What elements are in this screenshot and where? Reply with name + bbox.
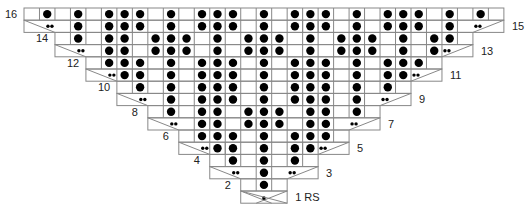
knit-dot-symbol — [120, 47, 128, 55]
knit-dot-symbol — [476, 10, 484, 18]
knit-dot-symbol — [244, 120, 252, 128]
bobble-symbol — [205, 147, 208, 150]
row-label-4: 4 — [194, 154, 200, 166]
knit-dot-symbol — [213, 10, 221, 18]
knit-dot-symbol — [291, 132, 299, 140]
knit-dot-symbol — [213, 83, 221, 91]
knit-dot-symbol — [213, 71, 221, 79]
knit-dot-symbol — [198, 132, 206, 140]
knit-dot-symbol — [136, 83, 144, 91]
bobble-symbol — [108, 73, 111, 76]
knit-dot-symbol — [260, 71, 268, 79]
knit-dot-symbol — [353, 83, 361, 91]
knit-dot-symbol — [399, 47, 407, 55]
knit-dot-symbol — [167, 108, 175, 116]
knit-dot-symbol — [353, 59, 361, 67]
knit-dot-symbol — [306, 120, 314, 128]
knit-dot-symbol — [306, 132, 314, 140]
bobble-symbol — [443, 49, 446, 52]
knit-dot-symbol — [260, 181, 268, 189]
knit-dot-symbol — [322, 71, 330, 79]
bobble-symbol — [50, 25, 53, 28]
knit-dot-symbol — [322, 10, 330, 18]
knit-dot-symbol — [105, 22, 113, 30]
knit-dot-symbol — [198, 59, 206, 67]
row-label-1: 1 RS — [295, 191, 319, 203]
bobble-symbol — [381, 98, 384, 101]
knit-dot-symbol — [260, 59, 268, 67]
knit-dot-symbol — [260, 10, 268, 18]
knit-dot-symbol — [291, 71, 299, 79]
knit-dot-symbol — [322, 59, 330, 67]
knit-dot-symbol — [213, 22, 221, 30]
knit-dot-symbol — [275, 47, 283, 55]
knit-dot-symbol — [275, 120, 283, 128]
knit-dot-symbol — [105, 34, 113, 42]
bobble-symbol — [46, 25, 49, 28]
bobble-symbol — [292, 171, 295, 174]
knit-dot-symbol — [291, 10, 299, 18]
knit-dot-symbol — [198, 22, 206, 30]
knit-dot-symbol — [182, 34, 190, 42]
row-label-2: 2 — [225, 179, 231, 191]
knit-dot-symbol — [337, 47, 345, 55]
knit-dot-symbol — [415, 59, 423, 67]
row-label-6: 6 — [163, 130, 169, 142]
knit-dot-symbol — [275, 108, 283, 116]
knit-dot-symbol — [229, 95, 237, 103]
knit-dot-symbol — [353, 10, 361, 18]
knit-dot-symbol — [167, 22, 175, 30]
knit-dot-symbol — [151, 47, 159, 55]
bobble-symbol — [474, 25, 477, 28]
bobble-symbol — [323, 147, 326, 150]
row-label-12: 12 — [67, 57, 79, 69]
knit-dot-symbol — [291, 144, 299, 152]
knit-dot-symbol — [213, 34, 221, 42]
knit-dot-symbol — [384, 22, 392, 30]
decrease-diagonal-left — [241, 191, 272, 203]
knit-dot-symbol — [306, 83, 314, 91]
knit-dot-symbol — [229, 22, 237, 30]
row-label-16: 16 — [5, 8, 17, 20]
knit-dot-symbol — [229, 83, 237, 91]
knit-dot-symbol — [260, 83, 268, 91]
knit-dot-symbol — [167, 34, 175, 42]
knit-dot-symbol — [167, 95, 175, 103]
knit-dot-symbol — [213, 120, 221, 128]
knit-dot-symbol — [260, 22, 268, 30]
knit-dot-symbol — [337, 34, 345, 42]
knit-dot-symbol — [306, 59, 314, 67]
bobble-symbol — [350, 122, 353, 125]
knit-dot-symbol — [291, 95, 299, 103]
knit-dot-symbol — [198, 95, 206, 103]
bobble-symbol — [81, 49, 84, 52]
bobble-symbol — [447, 49, 450, 52]
knit-dot-symbol — [229, 59, 237, 67]
knit-dot-symbol — [384, 59, 392, 67]
row-label-13: 13 — [481, 45, 493, 57]
knit-dot-symbol — [291, 156, 299, 164]
row-label-15: 15 — [512, 20, 524, 32]
knit-dot-symbol — [306, 47, 314, 55]
knit-dot-symbol — [430, 34, 438, 42]
knit-dot-symbol — [151, 34, 159, 42]
row-label-7: 7 — [388, 118, 394, 130]
knit-dot-symbol — [446, 22, 454, 30]
knit-dot-symbol — [306, 144, 314, 152]
knit-dot-symbol — [384, 83, 392, 91]
knit-dot-symbol — [306, 95, 314, 103]
knit-dot-symbol — [244, 47, 252, 55]
knit-dot-symbol — [105, 10, 113, 18]
knit-dot-symbol — [306, 71, 314, 79]
knit-dot-symbol — [399, 34, 407, 42]
knit-dot-symbol — [229, 156, 237, 164]
bobble-symbol — [201, 147, 204, 150]
knit-dot-symbol — [198, 71, 206, 79]
knit-dot-symbol — [213, 144, 221, 152]
knit-dot-symbol — [260, 132, 268, 140]
bobble-symbol — [174, 122, 177, 125]
knit-dot-symbol — [368, 47, 376, 55]
bobble-symbol — [319, 147, 322, 150]
knit-dot-symbol — [260, 47, 268, 55]
knit-dot-symbol — [353, 108, 361, 116]
